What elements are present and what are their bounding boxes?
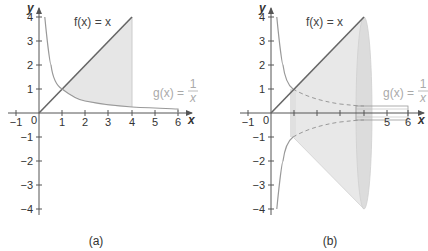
figure: −1 0 1 2 3 4 5 6 x 4 3 2 1 −1 −2 −3 −4 y…	[0, 0, 428, 251]
g-label: g(x) =	[383, 86, 414, 100]
g-label: g(x) =	[153, 86, 184, 100]
x-tick-label: 6	[405, 116, 411, 128]
y-tick-label: −3	[252, 179, 265, 191]
panel-label-a: (a)	[89, 234, 104, 248]
shaded-region	[62, 17, 132, 107]
g-label-numerator: 1	[420, 77, 427, 91]
panel-a: −1 0 1 2 3 4 5 6 x 4 3 2 1 −1 −2 −3 −4 y…	[8, 1, 198, 248]
f-label: f(x) = x	[74, 15, 111, 29]
y-tick-label: 3	[259, 35, 265, 47]
y-tick-label: −3	[20, 179, 33, 191]
y-tick-label: 1	[27, 83, 33, 95]
x-tick-label: 3	[105, 116, 111, 128]
f-label: f(x) = x	[306, 15, 343, 29]
x-tick-label: −1	[242, 116, 255, 128]
y-axis-name: y	[26, 1, 35, 15]
x-tick-label: 0	[31, 114, 37, 126]
y-tick-label: −4	[20, 203, 33, 215]
panel-label-b: (b)	[323, 234, 338, 248]
x-tick-label: 4	[129, 116, 135, 128]
y-tick-label: −1	[20, 131, 33, 143]
x-tick-label: 1	[59, 116, 65, 128]
x-axis-name: x	[417, 113, 426, 127]
x-tick-label: 6	[175, 116, 181, 128]
y-tick-label: 2	[27, 59, 33, 71]
x-axis-name: x	[187, 113, 196, 127]
g-label-numerator: 1	[190, 77, 197, 91]
x-tick-label: 0	[263, 114, 269, 126]
y-axis-name: y	[258, 1, 267, 15]
y-tick-label: −2	[20, 155, 33, 167]
x-tick-label: 5	[384, 116, 390, 128]
g-label-denominator: x	[419, 91, 427, 105]
y-tick-label: 3	[27, 35, 33, 47]
y-tick-label: 2	[259, 59, 265, 71]
y-tick-label: −4	[252, 203, 265, 215]
x-tick-label: −1	[10, 116, 23, 128]
panel-b: −1 0 5 6 x 4 3 2 1 −1 −2 −3 −4 y f(x) = …	[240, 1, 428, 248]
g-label-denominator: x	[189, 91, 197, 105]
y-tick-label: −1	[252, 131, 265, 143]
g-curve-upper	[277, 17, 293, 89]
x-tick-label: 5	[152, 116, 158, 128]
y-tick-label: −2	[252, 155, 265, 167]
g-curve-lower	[277, 137, 293, 209]
y-tick-label: 1	[259, 83, 265, 95]
x-tick-label: 2	[82, 116, 88, 128]
